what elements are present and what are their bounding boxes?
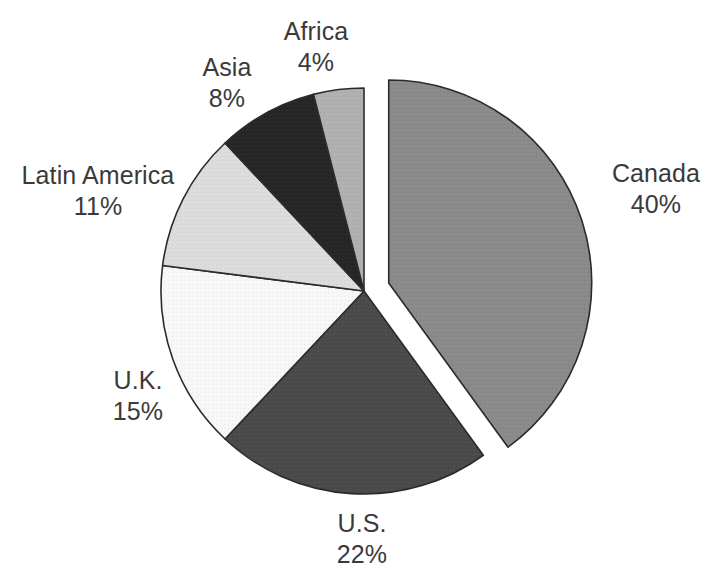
slice-label-uk: U.K. 15% [86, 365, 190, 426]
slice-label-asia-name: Asia [172, 52, 282, 83]
slice-label-latin-america: Latin America 11% [8, 160, 188, 221]
slice-label-us-name: U.S. [300, 508, 424, 539]
slice-label-uk-value: 15% [86, 396, 190, 427]
slice-label-uk-name: U.K. [86, 365, 190, 396]
slice-label-canada: Canada 40% [600, 158, 712, 219]
slice-label-africa-name: Africa [256, 16, 376, 47]
slice-label-asia: Asia 8% [172, 52, 282, 113]
slice-label-us: U.S. 22% [300, 508, 424, 569]
slice-label-latin-america-name: Latin America [8, 160, 188, 191]
pie-chart-canvas [0, 0, 715, 586]
slice-label-us-value: 22% [300, 539, 424, 570]
slice-label-latin-america-value: 11% [8, 191, 188, 222]
slice-label-canada-value: 40% [600, 189, 712, 220]
slice-label-canada-name: Canada [600, 158, 712, 189]
pie-chart: Africa 4% Asia 8% Latin America 11% U.K.… [0, 0, 715, 586]
slice-label-asia-value: 8% [172, 83, 282, 114]
